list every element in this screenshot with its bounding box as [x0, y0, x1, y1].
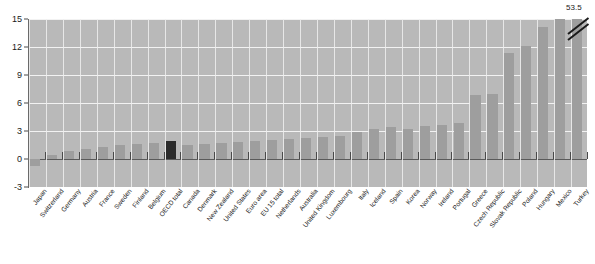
- y-tick-label: 3: [0, 127, 22, 136]
- bar[interactable]: [115, 145, 125, 159]
- bar[interactable]: [301, 138, 311, 159]
- bar-group[interactable]: [282, 19, 299, 187]
- bar-group[interactable]: [451, 19, 468, 187]
- y-tick-label: 9: [0, 71, 22, 80]
- bar[interactable]: [487, 94, 497, 159]
- x-tick-mark: [587, 152, 588, 159]
- bar-group[interactable]: [333, 19, 350, 187]
- bar[interactable]: [386, 127, 396, 159]
- bar-group[interactable]: [536, 19, 553, 187]
- bar[interactable]: [98, 147, 108, 159]
- bar[interactable]: [30, 159, 40, 166]
- bar-group[interactable]: [401, 19, 418, 187]
- bar-group[interactable]: [367, 19, 384, 187]
- bar[interactable]: [470, 95, 480, 159]
- bar-chart: 15129630-3 53.5 JapanSwitzerlandGermanyA…: [0, 0, 595, 264]
- bar-group[interactable]: [299, 19, 316, 187]
- bar[interactable]: [64, 151, 74, 159]
- bar-group[interactable]: [435, 19, 452, 187]
- bar[interactable]: [284, 139, 294, 159]
- bar[interactable]: [250, 141, 260, 159]
- bar[interactable]: [572, 19, 582, 159]
- y-tick-label: -3: [0, 183, 22, 192]
- bar-group[interactable]: [231, 19, 248, 187]
- bar-group[interactable]: [113, 19, 130, 187]
- x-axis-label: Austria: [81, 188, 99, 208]
- x-axis-label: Iceland: [369, 188, 387, 209]
- y-tick-label: 12: [0, 43, 22, 52]
- bar[interactable]: [521, 46, 531, 159]
- bar[interactable]: [199, 144, 209, 159]
- bar-group[interactable]: [468, 19, 485, 187]
- bar-group[interactable]: [350, 19, 367, 187]
- bar-group[interactable]: [214, 19, 231, 187]
- bar-group[interactable]: [265, 19, 282, 187]
- bar[interactable]: [233, 142, 243, 159]
- bar-group[interactable]: [79, 19, 96, 187]
- bar-group[interactable]: [96, 19, 113, 187]
- bar[interactable]: [369, 129, 379, 159]
- bar[interactable]: [149, 143, 159, 159]
- y-tick-label: 0: [0, 155, 22, 164]
- bar-group[interactable]: [164, 19, 181, 187]
- x-axis-label: Turkey: [573, 188, 590, 208]
- bar[interactable]: [216, 143, 226, 159]
- bar[interactable]: [47, 155, 57, 159]
- bar[interactable]: [437, 125, 447, 159]
- bar[interactable]: [318, 137, 328, 159]
- bar-group[interactable]: [28, 19, 45, 187]
- bar-group[interactable]: 53.5: [570, 19, 587, 187]
- axis-break-icon: [570, 19, 587, 37]
- bar-group[interactable]: [384, 19, 401, 187]
- y-tick-label: 15: [0, 15, 22, 24]
- x-axis-label: Spain: [389, 188, 405, 205]
- bar[interactable]: [403, 129, 413, 159]
- bar-group[interactable]: [45, 19, 62, 187]
- bar[interactable]: [420, 126, 430, 159]
- bar-group[interactable]: [62, 19, 79, 187]
- bar-group[interactable]: [130, 19, 147, 187]
- bar[interactable]: [504, 53, 514, 159]
- bar[interactable]: [538, 27, 548, 159]
- bar-group[interactable]: [197, 19, 214, 187]
- x-axis-label: Mexico: [555, 188, 573, 209]
- bar-group[interactable]: [248, 19, 265, 187]
- bar-series: 53.5: [28, 19, 587, 187]
- bar[interactable]: [335, 136, 345, 159]
- bar[interactable]: [352, 132, 362, 159]
- bar[interactable]: [182, 145, 192, 159]
- x-axis-label: Norway: [419, 188, 438, 210]
- bar-group[interactable]: [147, 19, 164, 187]
- bar[interactable]: [166, 141, 176, 159]
- bar[interactable]: [81, 149, 91, 159]
- x-axis-labels: JapanSwitzerlandGermanyAustriaFranceSwed…: [28, 188, 587, 264]
- bar[interactable]: [555, 19, 565, 159]
- bar-group[interactable]: [485, 19, 502, 187]
- bar-group[interactable]: [418, 19, 435, 187]
- bar-group[interactable]: [519, 19, 536, 187]
- y-tick-label: 6: [0, 99, 22, 108]
- bar-group[interactable]: [316, 19, 333, 187]
- bar[interactable]: [132, 144, 142, 159]
- bar[interactable]: [454, 123, 464, 159]
- bar-group[interactable]: [180, 19, 197, 187]
- bar-group[interactable]: [553, 19, 570, 187]
- bar-group[interactable]: [502, 19, 519, 187]
- bar-value-label: 53.5: [566, 4, 582, 12]
- x-axis-label: Italy: [358, 188, 371, 202]
- bar[interactable]: [267, 140, 277, 159]
